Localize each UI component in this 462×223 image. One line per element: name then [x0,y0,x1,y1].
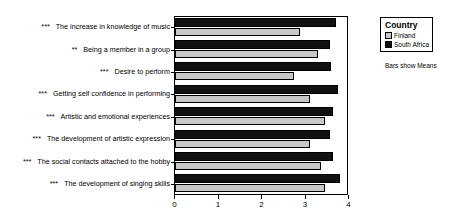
y-tick [171,94,175,95]
bar-finland [175,50,318,58]
bar-finland [175,72,294,80]
category-text: Desire to perform [114,67,170,76]
x-tick [348,195,349,199]
legend-label: South Africa [394,41,429,48]
category-label: ***The development of artistic expressio… [33,134,170,143]
south-africa-swatch [385,41,392,48]
y-tick [171,139,175,140]
x-tick-label: 4 [344,200,354,209]
significance-stars: *** [23,157,31,166]
significance-stars: *** [46,112,54,121]
bar-south-africa [175,18,336,27]
category-label: **Being a member in a group [72,45,170,54]
bar-south-africa [175,107,333,116]
x-tick-label: 2 [257,200,267,209]
bar-finland [175,162,321,170]
x-tick [305,195,306,199]
category-label: ***The development of singing skills [50,179,170,188]
y-tick [171,27,175,28]
y-tick [171,162,175,163]
category-text: The development of singing skills [64,179,170,188]
significance-stars: *** [50,179,58,188]
x-tick-label: 3 [300,200,310,209]
bar-finland [175,95,310,103]
category-text: Artistic and emotional experiences [61,112,170,121]
legend-item-finland: Finland [385,32,415,39]
y-tick [171,184,175,185]
category-label: ***The social contacts attached to the h… [23,157,170,166]
legend-label: Finland [394,32,415,39]
chart-note: Bars show Means [385,62,437,69]
category-text: The increase in knowledge of music [56,22,170,31]
category-text: The development of artistic expression [47,134,170,143]
x-tick-label: 1 [213,200,223,209]
x-tick-label: 0 [170,200,180,209]
x-tick [174,195,175,199]
category-label: ***The increase in knowledge of music [41,22,170,31]
bar-south-africa [175,62,331,71]
category-label: ***Desire to perform [100,67,170,76]
bar-finland [175,28,300,36]
y-tick [171,50,175,51]
significance-stars: *** [33,134,41,143]
significance-stars: *** [39,89,47,98]
bar-south-africa [175,130,330,139]
bar-finland [175,184,325,192]
y-tick [171,72,175,73]
legend-title: Country [385,20,418,30]
category-label: ***Artistic and emotional experiences [46,112,170,121]
y-tick [171,117,175,118]
bar-south-africa [175,174,340,183]
category-label: ***Getting self confidence in performing [39,89,170,98]
x-tick [261,195,262,199]
category-text: Being a member in a group [83,45,170,54]
x-tick [218,195,219,199]
significance-stars: *** [41,22,49,31]
bar-south-africa [175,40,330,49]
category-text: The social contacts attached to the hobb… [37,157,170,166]
bar-finland [175,140,310,148]
finland-swatch [385,32,392,39]
legend-item-south-africa: South Africa [385,41,429,48]
category-text: Getting self confidence in performing [53,89,170,98]
significance-stars: *** [100,67,108,76]
significance-stars: ** [72,45,78,54]
bar-finland [175,117,325,125]
bar-south-africa [175,85,338,94]
legend: Country Finland South Africa [380,17,433,52]
bar-south-africa [175,152,333,161]
